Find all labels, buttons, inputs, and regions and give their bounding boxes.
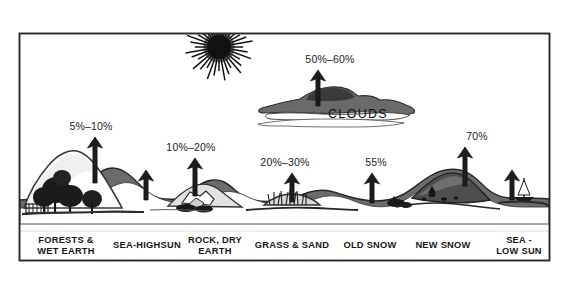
percent-label-new-snow: 70% (466, 130, 488, 142)
surface-label-rock-dry-earth-line2: EARTH (198, 246, 231, 256)
clouds-label: CLOUDS (328, 107, 388, 121)
percent-label-forests-wet-earth: 5%–10% (69, 120, 112, 132)
percent-label-grass-sand: 20%–30% (260, 156, 309, 168)
percent-label-old-snow: 55% (365, 156, 387, 168)
percent-label-rock-dry-earth: 10%–20% (166, 141, 215, 153)
surface-label-forests-wet-earth-line2: WET EARTH (37, 246, 95, 256)
surface-label-forests-wet-earth: FORESTS & (38, 235, 93, 245)
surface-label-rock-dry-earth: ROCK, DRY (188, 235, 243, 245)
percent-label-clouds: 50%–60% (305, 53, 354, 65)
surface-label-grass-sand: GRASS & SAND (255, 240, 329, 250)
surface-label-sea-low-sun-line2: LOW SUN (496, 246, 542, 256)
diagram-content: CLOUDS (20, 14, 549, 260)
surface-label-new-snow: NEW SNOW (415, 240, 470, 250)
diagram-canvas: CLOUDS (0, 0, 569, 293)
albedo-diagram: CLOUDS (0, 0, 569, 293)
surface-label-old-snow: OLD SNOW (343, 240, 396, 250)
sun-halo (204, 32, 235, 63)
surface-label-sea-highsun: SEA-HIGHSUN (113, 240, 181, 250)
surface-label-sea-low-sun: SEA - (506, 235, 532, 245)
